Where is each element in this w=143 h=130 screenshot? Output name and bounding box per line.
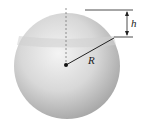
height-label: h [131, 17, 137, 29]
sphere-diagram: h R [0, 0, 143, 130]
center-point [64, 63, 68, 67]
arrow-down-icon [125, 31, 129, 36]
radius-label: R [87, 54, 95, 66]
arrow-up-icon [125, 11, 129, 16]
